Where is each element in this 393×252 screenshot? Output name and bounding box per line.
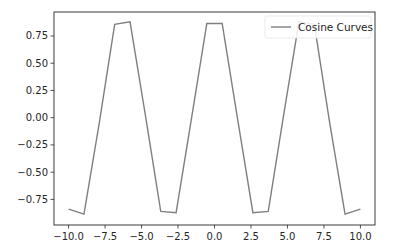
- legend: Cosine Curves: [265, 16, 373, 38]
- x-tick-label: 7.5: [316, 231, 332, 242]
- cosine-line-chart: 0.750.500.250.00−0.25−0.50−0.75 −10.0−7.…: [0, 0, 393, 252]
- x-axis-ticks: −10.0−7.5−5.0−2.50.02.55.07.510.0: [53, 225, 371, 242]
- legend-label: Cosine Curves: [298, 21, 373, 33]
- axes-frame: [54, 12, 375, 225]
- x-tick-label: 2.5: [243, 231, 259, 242]
- x-tick-label: 5.0: [280, 231, 296, 242]
- y-tick-label: 0.75: [26, 30, 48, 41]
- y-tick-label: −0.75: [17, 194, 48, 205]
- x-tick-label: −10.0: [53, 231, 84, 242]
- y-tick-label: 0.50: [26, 58, 48, 69]
- x-tick-label: −7.5: [93, 231, 117, 242]
- plot-area: [69, 22, 361, 214]
- x-tick-label: 0.0: [207, 231, 223, 242]
- y-tick-label: −0.50: [17, 167, 48, 178]
- cosine-curve-line: [69, 22, 361, 214]
- y-axis-ticks: 0.750.500.250.00−0.25−0.50−0.75: [17, 30, 54, 204]
- y-tick-label: −0.25: [17, 139, 48, 150]
- x-tick-label: 10.0: [349, 231, 371, 242]
- x-tick-label: −5.0: [129, 231, 153, 242]
- y-tick-label: 0.00: [26, 112, 48, 123]
- x-tick-label: −2.5: [166, 231, 190, 242]
- y-tick-label: 0.25: [26, 85, 48, 96]
